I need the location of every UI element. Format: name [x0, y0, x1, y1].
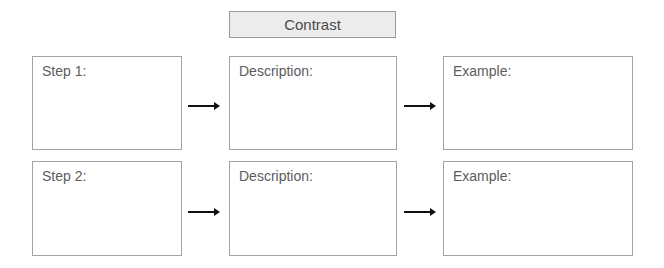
step-1-box: Step 1:	[32, 56, 182, 150]
example-1-label: Example:	[453, 63, 511, 79]
description-1-box: Description:	[229, 56, 397, 150]
header-title: Contrast	[284, 16, 341, 33]
description-2-label: Description:	[239, 168, 313, 184]
description-2-box: Description:	[229, 161, 397, 256]
contrast-header: Contrast	[229, 11, 396, 38]
arrow-right-icon	[188, 101, 220, 111]
step-2-label: Step 2:	[42, 168, 86, 184]
arrow-right-icon	[404, 207, 436, 217]
arrow-right-icon	[188, 207, 220, 217]
description-1-label: Description:	[239, 63, 313, 79]
step-2-box: Step 2:	[32, 161, 182, 256]
arrow-right-icon	[404, 101, 436, 111]
example-2-label: Example:	[453, 168, 511, 184]
example-2-box: Example:	[443, 161, 633, 256]
step-1-label: Step 1:	[42, 63, 86, 79]
example-1-box: Example:	[443, 56, 633, 150]
